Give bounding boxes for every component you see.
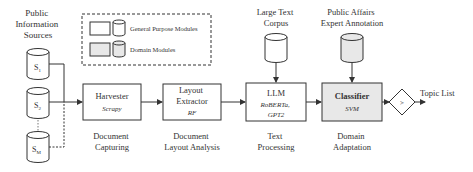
harvester-tool: Scrapy [102,105,122,113]
classifier-caption: Domain Adaptation [333,131,372,152]
sources-title: Public Information Sources [15,8,60,40]
llm-name: LLM [267,88,285,98]
corpus-cylinder [265,34,287,63]
harvester-name: Harvester [95,91,128,101]
harvester-caption: Document Capturing [93,131,131,152]
legend-general-rect [90,22,110,35]
legend-general-cylinder [113,20,125,36]
layout-extractor-tool: RF [187,109,197,117]
legend-domain-cylinder [113,41,125,57]
llm-caption: Text Processing [258,131,296,152]
legend-domain-rect [90,43,110,56]
classifier-tool: SVM [345,105,360,113]
legend-general-label: General Purpose Modules [130,25,198,32]
legend-domain-label: Domain Modules [130,46,176,53]
output-label: Topic List [420,88,455,98]
source-connectors [49,64,82,147]
classifier-name: Classifier [335,91,370,101]
annotation-label: Public Affairs Expert Annotation [321,7,384,28]
classifier-box [322,83,382,121]
corpus-label: Large Text Corpus [257,7,296,28]
source-cylinder-sm [27,132,49,163]
annotation-cylinder [341,34,363,63]
harvester-box [83,84,141,120]
layout-extractor-caption: Document Layout Analysis [164,131,219,152]
pipeline-diagram: Public Information Sources S1 S2 SM Gene… [0,0,473,172]
decision-symbol: > [400,99,404,107]
layout-extractor-name: Layout Extractor [176,85,208,106]
